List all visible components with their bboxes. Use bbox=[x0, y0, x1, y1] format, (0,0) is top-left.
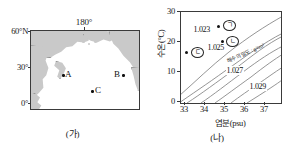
ts-point-label-3: ㄷ bbox=[191, 47, 204, 58]
ts-point-marker-3 bbox=[185, 51, 188, 54]
map-panel-caption: (가) bbox=[0, 127, 145, 140]
map-dot-b bbox=[122, 74, 125, 77]
pacific-ocean-map bbox=[30, 30, 140, 110]
ts-point-marker-2 bbox=[221, 40, 224, 43]
map-point-label-c: C bbox=[95, 85, 101, 95]
chart-xtick-34: 34 bbox=[197, 104, 211, 114]
map-ytick-30: 30° bbox=[17, 62, 28, 72]
chart-xtick-36: 36 bbox=[237, 104, 251, 114]
landmass-indonesia bbox=[30, 93, 51, 110]
ts-point-label-1: ㄱ bbox=[223, 20, 236, 31]
chart-ytick-30: 30 bbox=[153, 6, 175, 16]
map-ytick-0: 0° bbox=[21, 98, 28, 108]
chart-panel-caption: (나) bbox=[145, 131, 289, 144]
map-point-label-b: B bbox=[114, 69, 120, 79]
island-aleutian-2 bbox=[82, 41, 85, 43]
isoline-1027 bbox=[215, 54, 281, 103]
figure-root: 60°N 30° 0° 180° A B C bbox=[0, 0, 289, 149]
map-ytick-60N: 60°N bbox=[11, 26, 28, 36]
contour-label-1029: 1.029 bbox=[249, 82, 267, 91]
chart-xtick-35: 35 bbox=[217, 104, 231, 114]
chart-ytick-20: 20 bbox=[153, 36, 175, 46]
map-panel: 60°N 30° 0° 180° A B C bbox=[0, 0, 145, 149]
map-point-label-a: A bbox=[65, 69, 71, 79]
island-aleutian-3 bbox=[88, 43, 90, 45]
chart-xtick-33: 33 bbox=[177, 104, 191, 114]
island-kamchatka-tip bbox=[94, 40, 97, 43]
chart-xtick-37: 37 bbox=[257, 104, 271, 114]
chart-ytick-0: 0 bbox=[153, 96, 175, 106]
ts-point-label-2: ㄴ bbox=[226, 36, 239, 47]
island-aleutian-1 bbox=[77, 39, 80, 41]
ts-diagram-panel: 수온(°C) 30 20 10 0 1.023 bbox=[145, 0, 289, 149]
chart-x-axis-label: 염분(psu) bbox=[180, 116, 280, 128]
contour-label-1027: 1.027 bbox=[226, 66, 244, 75]
map-dot-c bbox=[91, 90, 94, 93]
ts-point-marker-1 bbox=[217, 25, 220, 28]
contour-label-1025: 1.025 bbox=[207, 43, 225, 52]
contour-label-1023: 1.023 bbox=[193, 25, 211, 34]
map-longitude-label: 180° bbox=[30, 17, 138, 27]
landmass-central-america bbox=[131, 67, 140, 91]
chart-ytick-10: 10 bbox=[153, 66, 175, 76]
